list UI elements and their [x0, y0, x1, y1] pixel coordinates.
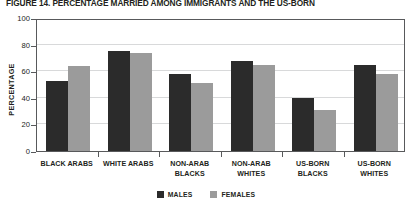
bar-females — [68, 66, 90, 151]
x-axis-separator — [282, 152, 283, 157]
x-axis-label-line: BLACKS — [282, 170, 344, 180]
x-axis-label: NON-ARABWHITES — [221, 160, 283, 179]
chart-legend: MALESFEMALES — [0, 191, 412, 198]
x-axis-separator — [221, 152, 222, 157]
legend-item: FEMALES — [210, 191, 255, 198]
x-axis-label-line: WHITE ARABS — [98, 160, 160, 170]
figure-container: FIGURE 14. PERCENTAGE MARRIED AMONG IMMI… — [0, 0, 412, 209]
bar-females — [191, 83, 213, 151]
x-axis-label-line: NON-ARAB — [159, 160, 221, 170]
bar-females — [130, 53, 152, 151]
x-axis-separator — [344, 152, 345, 157]
legend-swatch-icon — [210, 191, 217, 198]
x-axis-label: US-BORNWHITES — [344, 160, 406, 179]
bar-females — [253, 65, 275, 151]
y-tick-label: 0 — [8, 148, 30, 156]
bar-group — [345, 20, 407, 151]
bar-groups — [37, 20, 404, 151]
bar-group — [99, 20, 161, 151]
x-axis-label-line: BLACKS — [159, 170, 221, 180]
bar-males — [292, 98, 314, 151]
x-axis-label-line: US-BORN — [282, 160, 344, 170]
x-axis-label-line: BLACK ARABS — [36, 160, 98, 170]
bar-group — [160, 20, 222, 151]
x-axis-label-line: WHITES — [344, 170, 406, 180]
legend-item: MALES — [157, 191, 193, 198]
bar-females — [314, 110, 336, 151]
x-axis-label-line: WHITES — [221, 170, 283, 180]
bar-males — [354, 65, 376, 151]
legend-label: MALES — [168, 191, 193, 198]
bar-males — [231, 61, 253, 151]
y-tick-label: 100 — [8, 15, 30, 23]
bar-group — [37, 20, 99, 151]
x-axis-label: BLACK ARABS — [36, 160, 98, 170]
figure-title: FIGURE 14. PERCENTAGE MARRIED AMONG IMMI… — [6, 0, 406, 8]
bar-males — [169, 74, 191, 151]
y-axis-title: PERCENTAGE — [7, 40, 16, 140]
y-tick-mark — [31, 152, 36, 153]
x-axis-label: NON-ARABBLACKS — [159, 160, 221, 179]
legend-swatch-icon — [157, 191, 164, 198]
x-axis-label: WHITE ARABS — [98, 160, 160, 170]
bar-males — [108, 51, 130, 151]
bar-group — [283, 20, 345, 151]
x-axis-label-line: NON-ARAB — [221, 160, 283, 170]
legend-label: FEMALES — [221, 191, 255, 198]
bar-males — [46, 81, 68, 151]
bar-group — [222, 20, 284, 151]
bar-females — [376, 74, 398, 151]
x-axis-separator — [98, 152, 99, 157]
plot-area — [36, 19, 405, 152]
x-axis-separator — [159, 152, 160, 157]
x-axis-label-line: US-BORN — [344, 160, 406, 170]
x-axis-label: US-BORNBLACKS — [282, 160, 344, 179]
